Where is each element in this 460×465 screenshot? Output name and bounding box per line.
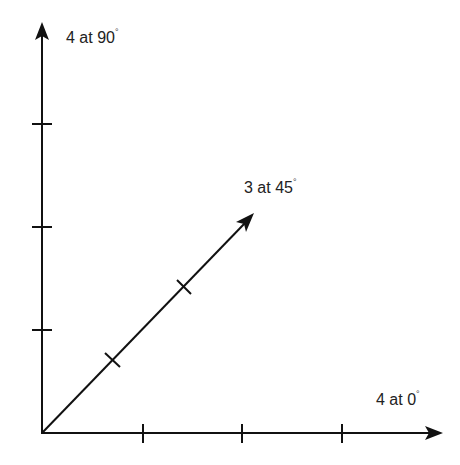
vector-0deg-label: 4 at 0° bbox=[376, 389, 420, 408]
vector-45deg-shaft bbox=[42, 223, 245, 433]
vector-90deg bbox=[32, 22, 52, 433]
vector-diagram: 4 at 90° 3 at 45° 4 at 0° bbox=[0, 0, 460, 465]
vector-90deg-label: 4 at 90° bbox=[66, 27, 119, 46]
vector-45deg-label: 3 at 45° bbox=[244, 177, 297, 196]
vector-45deg bbox=[42, 213, 254, 433]
vector-0deg bbox=[41, 424, 443, 443]
